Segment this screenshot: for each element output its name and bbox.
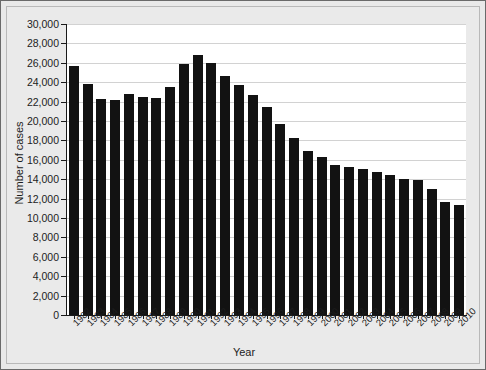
y-tick-label: 18,000 bbox=[3, 135, 59, 145]
y-tick-mark bbox=[61, 179, 66, 180]
y-tick-mark bbox=[61, 160, 66, 161]
bar bbox=[440, 202, 450, 315]
bar bbox=[275, 124, 285, 315]
bar bbox=[206, 63, 216, 315]
bar bbox=[248, 95, 258, 315]
y-tick-mark bbox=[61, 218, 66, 219]
chart-figure: 02,0004,0006,0008,00010,00012,00014,0001… bbox=[0, 0, 486, 370]
y-tick-label: 0 bbox=[3, 310, 59, 320]
bar bbox=[138, 97, 148, 315]
y-tick-label: 6,000 bbox=[3, 252, 59, 262]
bar bbox=[262, 107, 272, 315]
bar bbox=[83, 84, 93, 315]
y-tick-label: 24,000 bbox=[3, 77, 59, 87]
y-tick-label: 20,000 bbox=[3, 116, 59, 126]
bar bbox=[427, 189, 437, 315]
y-tick-label: 8,000 bbox=[3, 232, 59, 242]
bar bbox=[124, 94, 134, 315]
y-tick-label: 16,000 bbox=[3, 155, 59, 165]
y-tick-mark bbox=[61, 121, 66, 122]
bar bbox=[303, 151, 313, 315]
y-tick-label: 22,000 bbox=[3, 97, 59, 107]
y-tick-mark bbox=[61, 276, 66, 277]
bar bbox=[399, 179, 409, 315]
y-tick-label: 12,000 bbox=[3, 194, 59, 204]
y-tick-mark bbox=[61, 102, 66, 103]
y-tick-mark bbox=[61, 24, 66, 25]
bar bbox=[317, 157, 327, 315]
y-tick-mark bbox=[61, 315, 66, 316]
bar bbox=[193, 55, 203, 315]
y-tick-label: 4,000 bbox=[3, 271, 59, 281]
bar-series bbox=[67, 24, 466, 315]
bar bbox=[413, 180, 423, 315]
bar bbox=[454, 205, 464, 315]
y-tick-mark bbox=[61, 296, 66, 297]
bar bbox=[385, 175, 395, 315]
bar bbox=[165, 87, 175, 315]
bar bbox=[96, 99, 106, 315]
bar bbox=[220, 76, 230, 315]
bar bbox=[358, 169, 368, 315]
y-tick-mark bbox=[61, 43, 66, 44]
bar bbox=[344, 167, 354, 315]
y-tick-mark bbox=[61, 237, 66, 238]
y-tick-label: 26,000 bbox=[3, 58, 59, 68]
bar bbox=[330, 165, 340, 315]
y-tick-mark bbox=[61, 257, 66, 258]
y-tick-mark bbox=[61, 140, 66, 141]
y-axis-tick-labels: 02,0004,0006,0008,00010,00012,00014,0001… bbox=[1, 1, 59, 370]
bar bbox=[151, 98, 161, 315]
x-axis-title: Year bbox=[1, 346, 486, 358]
y-tick-label: 10,000 bbox=[3, 213, 59, 223]
y-tick-label: 28,000 bbox=[3, 38, 59, 48]
y-axis-title: Number of cases bbox=[13, 108, 25, 218]
bar bbox=[179, 64, 189, 315]
y-tick-mark bbox=[61, 63, 66, 64]
y-tick-label: 2,000 bbox=[3, 291, 59, 301]
y-tick-mark bbox=[61, 199, 66, 200]
y-tick-label: 14,000 bbox=[3, 174, 59, 184]
bar bbox=[110, 100, 120, 315]
bar bbox=[289, 138, 299, 315]
y-tick-mark bbox=[61, 82, 66, 83]
bar bbox=[234, 85, 244, 315]
bar bbox=[372, 172, 382, 315]
y-tick-label: 30,000 bbox=[3, 19, 59, 29]
bar bbox=[69, 66, 79, 315]
